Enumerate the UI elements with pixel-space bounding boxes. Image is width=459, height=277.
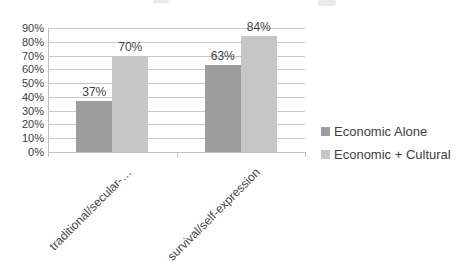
bar-economic-cultural xyxy=(241,36,277,152)
axis-tick xyxy=(305,153,306,157)
y-tick-label: 0% xyxy=(4,147,44,158)
y-tick-label: 50% xyxy=(4,78,44,89)
x-category-label: traditional/secular-… xyxy=(47,166,134,253)
y-tick-label: 60% xyxy=(4,64,44,75)
data-label: 37% xyxy=(82,85,106,99)
bar-economic-alone xyxy=(76,101,112,152)
x-category-label: survival/self-expression xyxy=(166,166,263,263)
data-label: 84% xyxy=(247,20,271,34)
bar-chart: 37%63%70%84% 0%10%20%30%40%50%60%70%80%9… xyxy=(0,0,459,277)
data-label: 70% xyxy=(118,40,142,54)
y-tick-label: 90% xyxy=(4,23,44,34)
y-tick-label: 70% xyxy=(4,51,44,62)
cropped-title-artifact xyxy=(318,0,336,6)
bar-economic-cultural xyxy=(112,56,148,152)
y-axis-line xyxy=(48,28,49,152)
legend-swatch-icon xyxy=(321,127,330,136)
legend-swatch-icon xyxy=(321,150,330,159)
y-tick-label: 20% xyxy=(4,119,44,130)
legend-label: Economic + Cultural xyxy=(334,148,451,162)
data-label: 63% xyxy=(211,49,235,63)
y-tick-label: 40% xyxy=(4,92,44,103)
axis-tick xyxy=(177,153,178,157)
y-tick-label: 10% xyxy=(4,133,44,144)
cropped-title-artifact xyxy=(153,0,169,3)
y-tick-label: 80% xyxy=(4,37,44,48)
legend-label: Economic Alone xyxy=(334,125,427,139)
axis-tick xyxy=(48,153,49,157)
bar-economic-alone xyxy=(205,65,241,152)
y-tick-label: 30% xyxy=(4,106,44,117)
